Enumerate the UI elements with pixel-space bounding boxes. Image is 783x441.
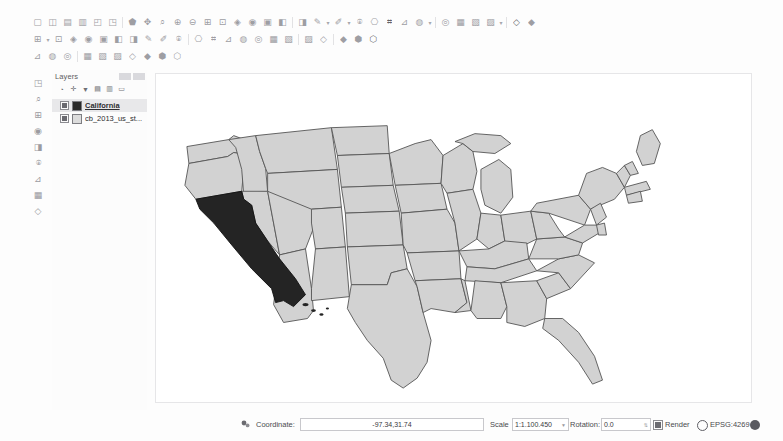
zoom-out-icon[interactable]: ⊕ bbox=[170, 15, 185, 30]
state-wisconsin bbox=[441, 144, 477, 194]
reshape-features-icon[interactable]: ◆ bbox=[336, 32, 351, 47]
pan-map-icon[interactable]: ⬟ bbox=[125, 15, 140, 30]
layer-item-2[interactable]: cb_2013_us_st... bbox=[52, 112, 147, 125]
remove-layer-icon[interactable]: ▭ bbox=[116, 84, 127, 95]
add-feature-icon[interactable]: ◉ bbox=[81, 32, 96, 47]
help-icon[interactable]: ◆ bbox=[524, 15, 539, 30]
copy-features-icon[interactable]: ✐ bbox=[156, 32, 171, 47]
state-delaware bbox=[597, 223, 607, 235]
save-project-as-icon[interactable]: ▥ bbox=[75, 15, 90, 30]
delete-selected-icon[interactable]: ◨ bbox=[126, 32, 141, 47]
filter-legend-icon[interactable]: ▼ bbox=[80, 84, 91, 95]
scale-combo[interactable]: 1:1.100.450 ▼ bbox=[512, 418, 569, 431]
measure-tool-icon[interactable]: ◉ bbox=[28, 123, 48, 139]
message-log-icon[interactable] bbox=[240, 418, 251, 429]
python-console-icon[interactable]: ◇ bbox=[509, 15, 524, 30]
pan-to-selection-icon[interactable]: ✥ bbox=[140, 15, 155, 30]
merge-features-icon[interactable]: ⬡ bbox=[366, 32, 381, 47]
advanced-digitizing-icon[interactable]: ⌕ bbox=[28, 91, 48, 107]
add-part-icon[interactable]: ▧ bbox=[281, 32, 296, 47]
add-postgis-layer-icon[interactable]: ▧ bbox=[95, 49, 110, 64]
new-print-layout-icon[interactable]: ◰ bbox=[90, 15, 105, 30]
current-edits-icon[interactable]: ⊞ bbox=[30, 32, 45, 47]
paste-features-icon[interactable]: ⌾ bbox=[171, 32, 186, 47]
panel-close-button[interactable] bbox=[133, 73, 145, 80]
add-vector-layer-icon[interactable]: ⊿ bbox=[30, 49, 45, 64]
delete-ring-icon[interactable]: ◇ bbox=[316, 32, 331, 47]
undo-icon[interactable]: ⎔ bbox=[191, 32, 206, 47]
zoom-selection-icon[interactable]: ⊞ bbox=[200, 15, 215, 30]
zoom-layer-icon[interactable]: ⊡ bbox=[215, 15, 230, 30]
layer-name: California bbox=[85, 101, 120, 110]
new-project-icon[interactable]: ▢ bbox=[30, 15, 45, 30]
coordinate-input[interactable]: -97.34,31.74 bbox=[300, 418, 484, 431]
render-checkbox[interactable] bbox=[653, 420, 663, 430]
add-group-icon[interactable]: ✛ bbox=[68, 84, 79, 95]
add-mesh-layer-icon[interactable]: ◎ bbox=[60, 49, 75, 64]
field-calculator-icon[interactable]: ⊿ bbox=[397, 15, 412, 30]
open-layer-styling-panel-icon[interactable]: ◔ bbox=[56, 84, 67, 95]
globe-icon[interactable] bbox=[750, 420, 760, 430]
left-vertical-toolbar: ◳⌕⊞◉◨⌾⊿▦◇ bbox=[28, 75, 48, 219]
processing-toolbox-icon[interactable]: ⊿ bbox=[28, 171, 48, 187]
layer-item-1[interactable]: California bbox=[52, 99, 147, 112]
label-toolbar-icon[interactable]: ⌾ bbox=[28, 155, 48, 171]
digitizing-toolbar-icon[interactable]: ◳ bbox=[28, 75, 48, 91]
vector-tools-icon[interactable]: ◇ bbox=[28, 203, 48, 219]
style-manager-icon[interactable]: ◳ bbox=[105, 15, 120, 30]
rotation-spinner[interactable]: 0.0 ⇅ bbox=[601, 418, 651, 431]
crs-icon[interactable] bbox=[697, 420, 708, 431]
zoom-native-icon[interactable]: ◈ bbox=[230, 15, 245, 30]
layer-visibility-checkbox[interactable] bbox=[60, 114, 69, 123]
add-polygon-feature-icon[interactable]: ▣ bbox=[96, 32, 111, 47]
text-annotation-icon[interactable]: ▨ bbox=[483, 15, 498, 30]
add-wms-layer-icon[interactable]: ⬢ bbox=[155, 49, 170, 64]
simplify-feature-icon[interactable]: ◎ bbox=[251, 32, 266, 47]
add-oracle-layer-icon[interactable]: ◆ bbox=[140, 49, 155, 64]
toggle-editing-icon[interactable]: ⊡ bbox=[51, 32, 66, 47]
vertex-tool-icon[interactable]: ◧ bbox=[111, 32, 126, 47]
add-delimited-text-layer-icon[interactable]: ▦ bbox=[80, 49, 95, 64]
zoom-in-icon[interactable]: ⌕ bbox=[155, 15, 170, 30]
save-project-icon[interactable]: ▤ bbox=[60, 15, 75, 30]
select-by-expression-icon[interactable]: ⎔ bbox=[367, 15, 382, 30]
split-features-icon[interactable]: ⬢ bbox=[351, 32, 366, 47]
state-michigan-lower bbox=[481, 159, 513, 213]
zoom-full-icon[interactable]: ⊖ bbox=[185, 15, 200, 30]
crs-label[interactable]: EPSG:4269 bbox=[710, 420, 750, 429]
refresh-icon[interactable]: ◧ bbox=[275, 15, 290, 30]
panel-minimize-button[interactable] bbox=[119, 73, 131, 80]
fill-ring-icon[interactable]: ▨ bbox=[301, 32, 316, 47]
zoom-last-icon[interactable]: ◉ bbox=[245, 15, 260, 30]
add-ring-icon[interactable]: ▦ bbox=[266, 32, 281, 47]
map-canvas[interactable] bbox=[155, 73, 752, 403]
redo-icon[interactable]: ⌗ bbox=[206, 32, 221, 47]
identify-features-icon[interactable]: ◨ bbox=[295, 15, 310, 30]
new-bookmark-icon[interactable]: ▦ bbox=[453, 15, 468, 30]
cut-features-icon[interactable]: ✎ bbox=[141, 32, 156, 47]
add-spatialite-layer-icon[interactable]: ▨ bbox=[110, 49, 125, 64]
layer-visibility-checkbox[interactable] bbox=[60, 101, 69, 110]
rotation-label: Rotation: bbox=[570, 420, 600, 429]
statistical-summary-icon[interactable]: ◍ bbox=[412, 15, 427, 30]
show-bookmarks-icon[interactable]: ▧ bbox=[468, 15, 483, 30]
collapse-all-icon[interactable]: ▥ bbox=[104, 84, 115, 95]
state-maine bbox=[636, 130, 660, 166]
open-project-icon[interactable]: ◫ bbox=[45, 15, 60, 30]
plugins-toolbar-icon[interactable]: ▦ bbox=[28, 187, 48, 203]
measure-line-icon[interactable]: ✎ bbox=[310, 15, 325, 30]
select-features-icon[interactable]: ✐ bbox=[331, 15, 346, 30]
map-navigation-icon[interactable]: ◨ bbox=[28, 139, 48, 155]
add-wcs-layer-icon[interactable]: ⬡ bbox=[170, 49, 185, 64]
snapping-options-icon[interactable]: ⊞ bbox=[28, 107, 48, 123]
add-raster-layer-icon[interactable]: ◍ bbox=[45, 49, 60, 64]
save-layer-edits-icon[interactable]: ◈ bbox=[66, 32, 81, 47]
rotate-feature-icon[interactable]: ◍ bbox=[236, 32, 251, 47]
show-map-tips-icon[interactable]: ◎ bbox=[438, 15, 453, 30]
add-mssql-layer-icon[interactable]: ◇ bbox=[125, 49, 140, 64]
move-feature-icon[interactable]: ⊿ bbox=[221, 32, 236, 47]
zoom-next-icon[interactable]: ▣ bbox=[260, 15, 275, 30]
expand-all-icon[interactable]: ▤ bbox=[92, 84, 103, 95]
open-attribute-table-icon[interactable]: ⌗ bbox=[382, 15, 397, 30]
deselect-features-icon[interactable]: ⌾ bbox=[352, 15, 367, 30]
